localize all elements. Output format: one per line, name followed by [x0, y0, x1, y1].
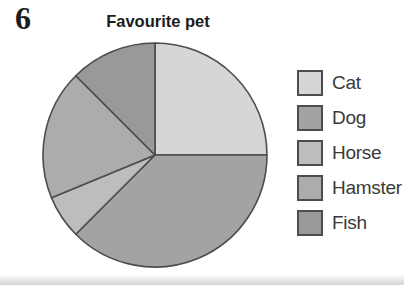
legend-swatch-horse [297, 140, 323, 166]
legend-label: Hamster [332, 177, 402, 199]
page-edge-shadow [0, 274, 404, 285]
pie-slice-cat [155, 43, 267, 155]
pie-chart [40, 40, 270, 270]
legend-swatch-fish [297, 210, 323, 236]
legend-swatch-cat [297, 70, 323, 96]
legend-item-dog: Dog [297, 105, 402, 131]
legend-label: Fish [332, 212, 367, 234]
legend-swatch-dog [297, 105, 323, 131]
legend-label: Horse [332, 142, 381, 164]
worksheet-page: 6 Favourite pet CatDogHorseHamsterFish [0, 0, 404, 285]
chart-title: Favourite pet [53, 12, 263, 31]
question-number: 6 [15, 2, 31, 34]
legend-label: Dog [332, 107, 366, 129]
legend-item-hamster: Hamster [297, 175, 402, 201]
legend-item-cat: Cat [297, 70, 402, 96]
chart-legend: CatDogHorseHamsterFish [297, 70, 402, 236]
legend-item-fish: Fish [297, 210, 402, 236]
legend-label: Cat [332, 72, 361, 94]
legend-swatch-hamster [297, 175, 323, 201]
legend-item-horse: Horse [297, 140, 402, 166]
